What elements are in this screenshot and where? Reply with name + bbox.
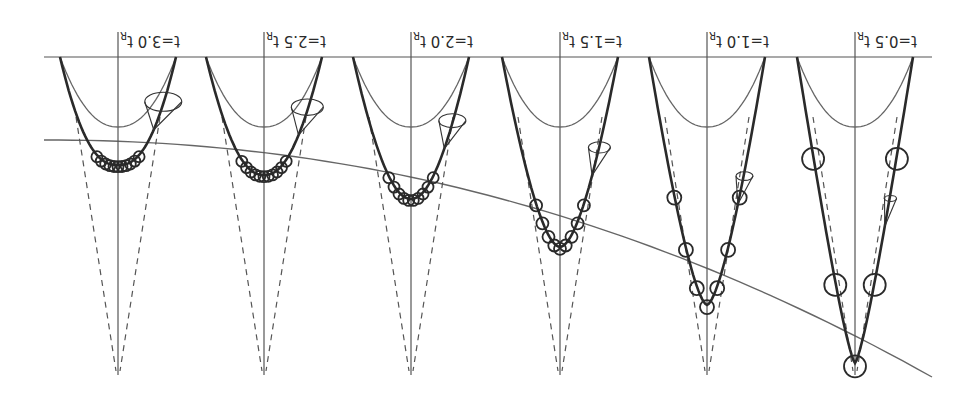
label-subscript: R bbox=[857, 30, 864, 41]
guide-line-left bbox=[413, 117, 453, 371]
label-main: t=2.0 t bbox=[420, 32, 473, 50]
label-main: t=1.0 t bbox=[716, 32, 769, 50]
panel-label: t=2.5 tR bbox=[266, 30, 326, 50]
panel-label: t=3.0 tR bbox=[120, 30, 180, 50]
panel-t15: t=1.5 tR bbox=[502, 30, 622, 375]
label-subscript: R bbox=[562, 30, 569, 41]
guide-line-right bbox=[369, 117, 409, 371]
panel-t20: t=2.0 tR bbox=[353, 30, 473, 375]
label-main: t=1.5 t bbox=[569, 32, 622, 50]
cone-edge bbox=[291, 107, 298, 135]
panel-label: t=1.0 tR bbox=[709, 30, 769, 50]
label-main: t=0.5 t bbox=[864, 32, 917, 50]
cone-edge bbox=[145, 102, 154, 130]
panel-t25: t=2.5 tR bbox=[206, 30, 326, 375]
trajectory-diagram: t=0.5 tRt=1.0 tRt=1.5 tRt=2.0 tRt=2.5 tR… bbox=[0, 0, 972, 401]
panel-t10: t=1.0 tR bbox=[649, 30, 769, 375]
label-subscript: R bbox=[709, 30, 716, 41]
cone-edge bbox=[299, 107, 324, 135]
panel-t05: t=0.5 tR bbox=[797, 30, 917, 377]
panel-label: t=0.5 tR bbox=[857, 30, 917, 50]
panel-label: t=1.5 tR bbox=[562, 30, 622, 50]
label-main: t=2.5 t bbox=[273, 32, 326, 50]
label-subscript: R bbox=[266, 30, 273, 41]
diagram-stage: t=0.5 tRt=1.0 tRt=1.5 tRt=2.0 tRt=2.5 tR… bbox=[0, 0, 972, 401]
label-subscript: R bbox=[413, 30, 420, 41]
label-main: t=3.0 t bbox=[127, 32, 180, 50]
panel-t30: t=3.0 tR bbox=[60, 30, 182, 375]
envelope-curve bbox=[44, 140, 932, 377]
panel-label: t=2.0 tR bbox=[413, 30, 473, 50]
label-subscript: R bbox=[120, 30, 127, 41]
